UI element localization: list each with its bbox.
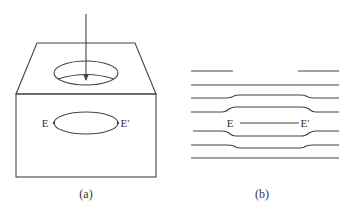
label-e-prime-a: E′ <box>120 117 129 129</box>
label-e-a: E <box>42 117 49 129</box>
line-4 <box>191 107 339 112</box>
box-front-face <box>16 94 156 177</box>
caption-a: (a) <box>79 187 92 201</box>
loop-e-e-prime <box>54 112 118 134</box>
label-e-b: E <box>227 117 234 129</box>
figure: E E′ (a) E E′ (b) <box>0 0 351 212</box>
point-e-prime <box>117 122 119 124</box>
panel-b: E E′ (b) <box>191 71 339 201</box>
line-3 <box>191 95 339 98</box>
arrow-head-icon <box>83 74 89 81</box>
point-e <box>53 122 55 124</box>
label-e-prime-b: E′ <box>300 117 309 129</box>
line-6 <box>191 145 339 148</box>
caption-b: (b) <box>255 187 269 201</box>
panel-a: E E′ (a) <box>16 14 156 201</box>
line-5 <box>193 131 339 136</box>
